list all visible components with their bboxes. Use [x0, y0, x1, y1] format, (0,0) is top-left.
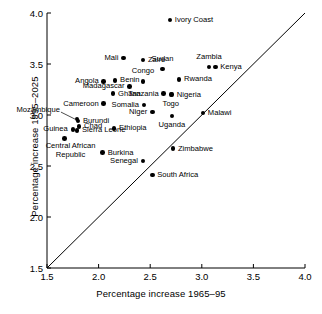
- data-point: [161, 91, 166, 96]
- data-point: [150, 110, 155, 115]
- x-tick-label: 3.0: [187, 271, 217, 282]
- scatter-chart: Ivory CoastMaliZaireZambiaKenyaSudanCong…: [0, 0, 322, 314]
- x-tick-label: 2.0: [84, 271, 114, 282]
- leader-line: [61, 112, 75, 119]
- data-point: [171, 146, 176, 151]
- x-tick-label: 4.0: [290, 271, 320, 282]
- data-point-label: Guinea: [43, 125, 68, 134]
- data-point-label: Tanzania: [128, 89, 158, 98]
- data-point: [62, 136, 67, 141]
- data-point-label: Zimbabwe: [178, 144, 213, 153]
- data-point-label: Senegal: [110, 157, 138, 166]
- data-point-label: Cameroon: [63, 99, 98, 108]
- data-point-label: South Africa: [157, 171, 198, 180]
- data-point-label: Rwanda: [184, 75, 212, 84]
- data-point: [121, 56, 126, 61]
- data-point: [141, 79, 146, 84]
- data-point-label: Sierra Leone: [82, 126, 125, 135]
- data-point-label: Central African Republic: [43, 142, 99, 159]
- data-point-label: Kenya: [220, 63, 242, 72]
- y-axis-title: Percentage increase 1995–2025: [29, 17, 40, 277]
- data-point-label: Uganda: [159, 121, 186, 130]
- data-point-label: Togo: [163, 100, 179, 109]
- data-point: [169, 92, 174, 97]
- data-point: [75, 128, 80, 133]
- data-point: [213, 65, 218, 70]
- data-point: [71, 127, 76, 132]
- data-point-label: Ivory Coast: [175, 16, 213, 25]
- data-point-label: Nigeria: [177, 90, 201, 99]
- x-tick-label: 3.5: [238, 271, 268, 282]
- data-point-label: Niger: [129, 108, 147, 117]
- data-point-label: Zambia: [196, 53, 221, 62]
- x-axis-title: Percentage increase 1965–95: [0, 288, 322, 299]
- data-point-label: Sudan: [152, 56, 174, 65]
- data-point-label: Malawi: [208, 109, 232, 118]
- label-leader-lines: [61, 112, 75, 119]
- data-point-label: Mali: [104, 54, 118, 63]
- x-tick-label: 2.5: [135, 271, 165, 282]
- data-point: [100, 150, 105, 155]
- data-point: [177, 77, 182, 82]
- data-point: [150, 173, 155, 178]
